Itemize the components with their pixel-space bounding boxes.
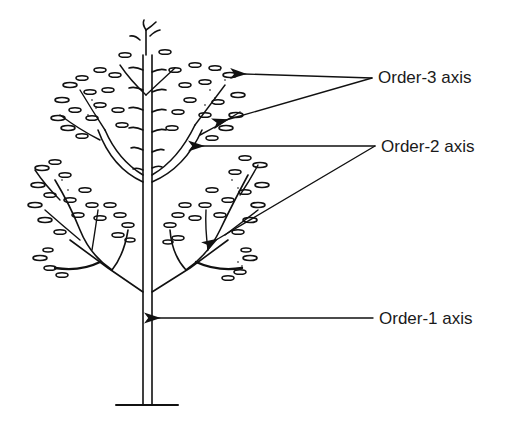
foliage — [28, 20, 269, 280]
tree-architecture-diagram: Order-3 axis Order-2 axis Order-1 axis — [0, 0, 527, 428]
order-1-axis-label: Order-1 axis — [379, 310, 473, 327]
upper-order-2-branches — [98, 125, 202, 182]
order-2-axis-label: Order-2 axis — [381, 138, 475, 155]
order-3-leader-2 — [226, 78, 372, 120]
leader-lines — [158, 74, 375, 318]
order-3-axis-label: Order-3 axis — [378, 69, 472, 86]
order-3-leader-1 — [244, 74, 372, 78]
tree-illustration — [0, 0, 527, 428]
